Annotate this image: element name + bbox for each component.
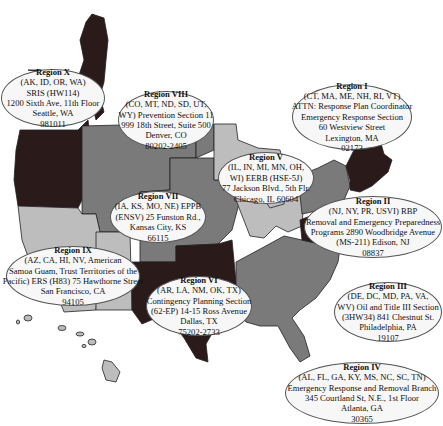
region-line: (3HW34) 841 Chestnut St. [342,312,434,322]
region-line: 77 Jackson Blvd., 5th Flr. [222,183,310,193]
region-line: 345 Courtland St, N.E., 1st Floor [305,393,419,403]
callout-region-viii: Region VIII (CO, MT, ND, SD, UT, WY) Pre… [118,91,214,149]
region-x-washington-oregon-idaho [14,120,90,208]
region-line: (IL, IN, MI, MN, OH, [228,162,304,172]
region-line: Programs 2890 Woodbridge Avenue [311,227,435,237]
region-line: (CT, MA, ME, NH, RI, VT) [304,91,401,101]
region-line: Contingency Planning Section [147,296,252,306]
region-line: (AR, LA, NM, OK, TX) [157,285,241,295]
region-line: 66115 [147,233,168,243]
region-line: Atlanta, GA [341,403,383,413]
region-line: Emergency Response Section [301,112,403,122]
region-title: Region VII [138,191,179,201]
region-line: Emergency Response and Removal Branch [288,383,437,393]
region-line: 94105 [62,297,83,307]
region-title: Region VI [180,275,217,285]
region-line: ATTN: Response Plan Coordinator [292,101,413,111]
callout-region-v: Region V (IL, IN, MI, MN, OH, WI) EERB (… [218,152,314,204]
region-title: Region IX [54,245,91,255]
region-line: 75202-2733 [178,327,220,337]
region-line: Lexington, MA [325,133,378,143]
region-line: San Francisco, CA [41,286,106,296]
region-line: 60 Westview Street [319,122,385,132]
region-line: (DE, DC, MD, PA, VA, [348,291,429,301]
region-title: Region III [369,281,407,291]
region-title: Region II [356,196,391,206]
region-line: 02173 [341,143,362,153]
region-line: Removal and Emergency Preparedness [306,217,440,227]
region-line: Kansas City, KS [130,222,187,232]
region-line: 981011 [40,119,65,129]
region-line: WI) EERB (HSE-5J) [230,173,303,183]
region-line: Philadelphia, PA [359,322,416,332]
region-line: 19107 [377,333,398,343]
region-line: (NJ, NY, PR, USVI) RBP [329,206,417,216]
callout-region-vii: Region VII (IA, KS, MO, NE) EPPB (ENSV) … [110,191,206,243]
hawaii-islands [16,315,120,382]
region-line: (IA, KS, MO, NE) EPPB [115,201,202,211]
callout-region-vi: Region VI (AR, LA, NM, OK, TX) Contingen… [146,276,252,336]
region-line: 08837 [362,248,383,258]
region-title: Region VIII [144,89,188,99]
region-title: Region IV [343,362,380,372]
region-title: Region I [336,81,367,91]
region-line: 30365 [351,414,372,424]
region-line: WV) Oil and Title III Section [337,302,438,312]
region-line: (CO, MT, ND, SD, UT, [126,99,207,109]
region-line: WY) Prevention Section 11 [119,110,214,120]
region-line: 999 18th Street, Suite 500 [121,120,211,130]
region-line: 80202-2405 [145,141,187,151]
region-line: 1200 Sixth Ave, 11th Floor [7,98,100,108]
region-line: (AZ, CA, HI, NV, American [24,255,121,265]
callout-region-ix: Region IX (AZ, CA, HI, NV, American Samo… [6,246,140,306]
region-line: (62-EP) 14-15 Ross Avenue [151,306,247,316]
region-line: (MS-211) Edison, NJ [336,237,409,247]
region-line: Chicago, IL 60604 [234,194,298,204]
region-line: Dallas, TX [180,316,218,326]
region-line: Seattle, WA [33,108,74,118]
region-line: Samoa Guam, Trust Territories of the [9,266,137,276]
region-line: Denver, CO [145,130,186,140]
region-title: Region V [249,152,283,162]
region-line: (ENSV) 25 Funston Rd., [115,212,200,222]
callout-region-i: Region I (CT, MA, ME, NH, RI, VT) ATTN: … [292,84,412,150]
region-title: Region X [36,67,70,77]
region-line: Pacific) ERS (H83) 75 Hawthorne Street [3,276,144,286]
region-line: (AK, ID, OR, WA) [20,77,85,87]
callout-region-ii: Region II (NJ, NY, PR, USVI) RBP Removal… [304,196,442,258]
callout-region-iv: Region IV (AL, FL, GA, KY, MS, NC, SC, T… [285,362,439,424]
region-line: SRIS (HW114) [27,88,80,98]
callout-region-x: Region X (AK, ID, OR, WA) SRIS (HW114) 1… [1,69,105,127]
region-line: (AL, FL, GA, KY, MS, NC, SC, TN) [298,372,425,382]
callout-region-iii: Region III (DE, DC, MD, PA, VA, WV) Oil … [334,282,442,342]
